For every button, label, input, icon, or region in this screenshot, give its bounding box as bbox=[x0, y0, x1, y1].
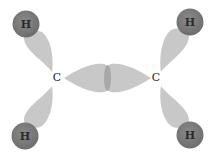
hydrogen-atom-bottom-left: H bbox=[12, 123, 39, 150]
hydrogen-atom-bottom-right: H bbox=[177, 122, 204, 149]
hydrogen-atom-top-right: H bbox=[177, 9, 204, 36]
hydrogen-label: H bbox=[20, 130, 30, 143]
ethylene-orbital-diagram: H H H H C C bbox=[0, 0, 217, 160]
hydrogen-label: H bbox=[185, 16, 195, 29]
orbital-lobe-right-upper bbox=[160, 28, 189, 72]
hydrogen-atom-top-left: H bbox=[13, 11, 40, 38]
hydrogen-label: H bbox=[21, 18, 31, 31]
orbital-lobe-cc-left bbox=[64, 64, 110, 93]
carbon-label-right: C bbox=[152, 71, 160, 84]
orbital-lobe-right-lower bbox=[160, 86, 189, 128]
hydrogen-label: H bbox=[185, 129, 195, 142]
orbital-overlap-cc bbox=[104, 65, 111, 91]
carbon-label-left: C bbox=[53, 71, 61, 84]
orbital-lobe-left-lower bbox=[24, 86, 53, 128]
orbital-lobe-cc-right bbox=[105, 64, 151, 93]
